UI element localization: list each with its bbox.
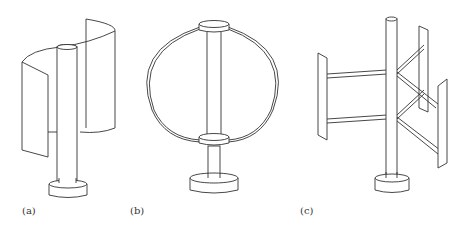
savonius-rotor-drawing [22,19,115,198]
h-rotor-drawing [318,17,447,193]
panel-label-c: (c) [300,205,313,216]
wind-turbine-figure [0,0,469,227]
panel-label-a: (a) [22,205,36,216]
darrieus-rotor-drawing [147,21,279,194]
panel-label-b: (b) [130,205,144,216]
